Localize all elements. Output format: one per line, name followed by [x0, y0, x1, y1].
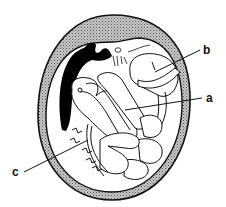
- label-c: c: [12, 166, 19, 178]
- label-a: a: [206, 92, 213, 104]
- diagram-canvas: [0, 0, 226, 207]
- label-b: b: [203, 44, 210, 56]
